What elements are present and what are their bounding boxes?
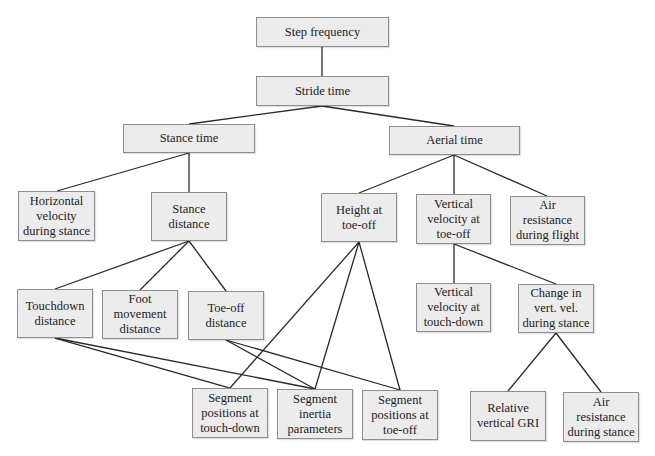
node-horizontal-velocity: Horizontal velocity during stance <box>18 191 95 241</box>
node-label: Foot movement distance <box>114 292 167 337</box>
node-change-vert-vel: Change in vert. vel. during stance <box>518 284 594 333</box>
node-label: Height at toe-off <box>336 203 382 233</box>
node-label: Touchdown distance <box>26 299 85 329</box>
node-aerial-time: Aerial time <box>389 126 520 155</box>
edge-stance_distance-to-touchdown_distance <box>55 241 189 289</box>
edge-stance_time-to-horizontal_velocity <box>57 153 189 191</box>
node-label: Step frequency <box>285 25 360 40</box>
node-stance-distance: Stance distance <box>151 192 227 241</box>
edge-touchdown_distance-to-seg_inertia <box>55 338 315 389</box>
node-label: Horizontal velocity during stance <box>23 194 90 239</box>
node-label: Vertical velocity at toe-off <box>427 197 479 242</box>
node-foot-movement-distance: Foot movement distance <box>102 290 178 339</box>
edge-change_vert_vel-to-air_res_stance <box>556 333 601 392</box>
node-stance-time: Stance time <box>123 124 255 153</box>
edge-change_vert_vel-to-relative_vertical_gri <box>508 333 556 391</box>
edge-toe_off_distance-to-seg_inertia <box>226 340 315 389</box>
node-segment-positions-touchdown: Segment positions at touch-down <box>192 388 268 438</box>
node-air-resistance-stance: Air resistance during stance <box>563 392 639 442</box>
node-label: Air resistance during flight <box>516 198 579 243</box>
node-vertical-velocity-toe-off: Vertical velocity at toe-off <box>416 194 491 244</box>
edge-touchdown_distance-to-seg_pos_touchdown <box>55 338 230 388</box>
node-step-frequency: Step frequency <box>256 17 389 47</box>
node-relative-vertical-gri: Relative vertical GRI <box>470 391 546 441</box>
node-label: Stance distance <box>169 202 210 232</box>
edge-aerial_time-to-height_toe_off <box>359 155 454 193</box>
node-label: Air resistance during stance <box>567 395 635 440</box>
node-label: Segment positions at toe-off <box>371 393 428 438</box>
edge-height_toe_off-to-seg_inertia <box>315 242 359 389</box>
edge-stride_time-to-aerial_time <box>322 106 454 126</box>
node-label: Segment inertia parameters <box>288 392 343 437</box>
node-vertical-velocity-touchdown: Vertical velocity at touch-down <box>416 283 491 332</box>
node-label: Aerial time <box>426 133 483 148</box>
node-toe-off-distance: Toe-off distance <box>188 291 264 340</box>
node-label: Relative vertical GRI <box>477 401 539 431</box>
edge-vert_vel_toe_off-to-change_vert_vel <box>454 244 556 284</box>
node-segment-positions-toe-off: Segment positions at toe-off <box>362 390 438 440</box>
node-label: Toe-off distance <box>206 301 247 331</box>
node-label: Stride time <box>295 84 350 99</box>
node-air-resistance-flight: Air resistance during flight <box>510 196 585 245</box>
node-segment-inertia-parameters: Segment inertia parameters <box>277 389 353 439</box>
edge-height_toe_off-to-seg_pos_toe_off <box>359 242 400 390</box>
node-stride-time: Stride time <box>256 76 389 106</box>
edge-stride_time-to-stance_time <box>189 106 322 124</box>
node-label: Change in vert. vel. during stance <box>523 286 590 331</box>
node-height-at-toe-off: Height at toe-off <box>321 193 397 242</box>
edge-stance_distance-to-foot_movement_distance <box>140 241 189 290</box>
hierarchy-diagram: Step frequency Stride time Stance time A… <box>0 0 655 456</box>
node-label: Vertical velocity at touch-down <box>424 285 484 330</box>
edge-stance_distance-to-toe_off_distance <box>189 241 226 291</box>
edge-toe_off_distance-to-seg_pos_toe_off <box>226 340 400 390</box>
node-touchdown-distance: Touchdown distance <box>17 289 93 338</box>
node-label: Segment positions at touch-down <box>200 391 260 436</box>
node-label: Stance time <box>160 131 219 146</box>
edge-aerial_time-to-air_res_flight <box>454 155 547 196</box>
